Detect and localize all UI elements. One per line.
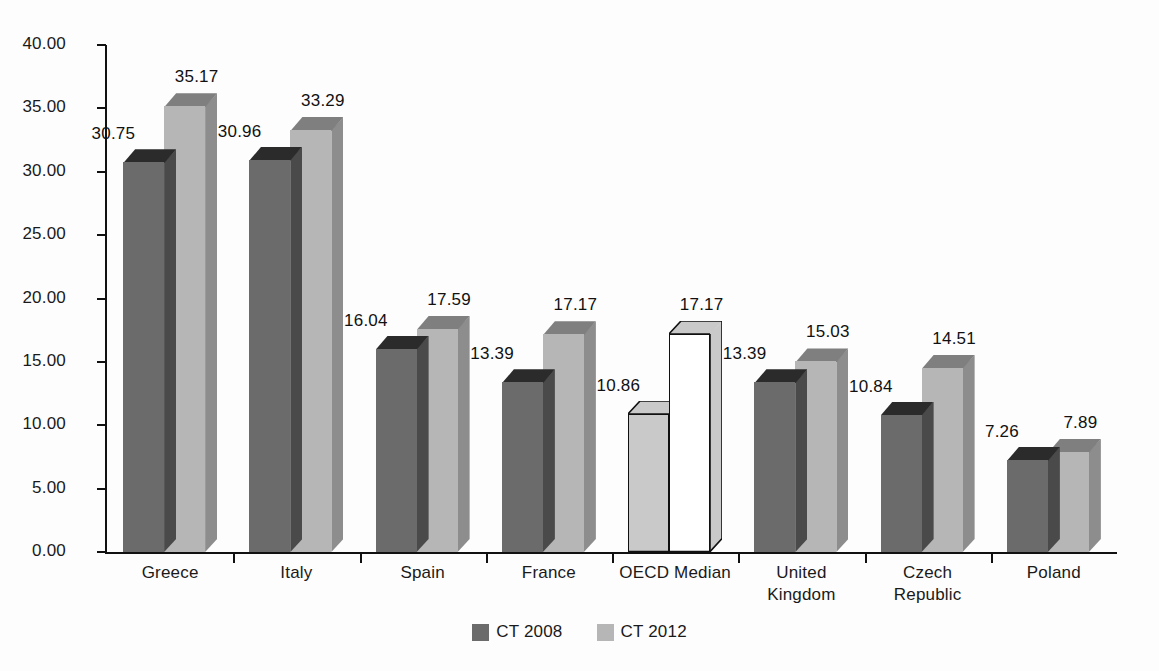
bar-column xyxy=(669,321,722,552)
y-axis-tick-label: 20.00 xyxy=(0,288,66,308)
bar-side-face xyxy=(164,149,176,552)
y-axis-tick-mark xyxy=(97,234,106,236)
bar-side-face xyxy=(922,402,934,552)
bar-value-label: 35.17 xyxy=(166,67,228,87)
y-axis-tick-label: 30.00 xyxy=(0,161,66,181)
bar-front-face xyxy=(502,382,543,552)
y-axis-tick-label: 5.00 xyxy=(0,478,66,498)
x-axis-category-label: OECD Median xyxy=(612,562,738,584)
y-axis-tick-label: 0.00 xyxy=(0,541,66,561)
bar-value-label: 7.89 xyxy=(1049,413,1111,433)
bar-front-face xyxy=(881,415,922,552)
bar-front-face xyxy=(376,349,417,552)
bar-side-face xyxy=(543,369,555,552)
y-axis-tick-mark xyxy=(97,171,106,173)
x-axis-category-label: United Kingdom xyxy=(738,562,864,606)
bar-side-face xyxy=(417,336,429,552)
bar-front-face xyxy=(123,162,164,552)
bar-value-label: 33.29 xyxy=(292,91,354,111)
bar-column xyxy=(754,369,807,552)
bar-side-face xyxy=(331,117,343,552)
legend-swatch xyxy=(597,624,614,641)
y-axis-tick-mark xyxy=(97,298,106,300)
chart-legend: CT 2008CT 2012 xyxy=(0,622,1159,642)
y-axis-tick-mark xyxy=(97,107,106,109)
y-axis-tick-mark xyxy=(97,424,106,426)
bar-side-face xyxy=(1048,447,1060,552)
bar-side-face xyxy=(836,348,848,552)
bar-value-label: 30.75 xyxy=(73,124,135,144)
legend-item[interactable]: CT 2008 xyxy=(472,622,562,642)
y-axis-line xyxy=(105,45,107,554)
y-axis-tick-label: 10.00 xyxy=(0,414,66,434)
x-axis-category-label: Spain xyxy=(360,562,486,584)
bar-value-label: 14.51 xyxy=(923,329,985,349)
plot-area: 40.0035.0030.0025.0020.0015.0010.005.000… xyxy=(0,0,1159,671)
bar-side-face xyxy=(458,316,470,552)
bar-side-face xyxy=(795,369,807,552)
y-axis-tick-label: 40.00 xyxy=(0,34,66,54)
bar-front-face xyxy=(1007,460,1048,552)
x-axis-category-label: Greece xyxy=(107,562,233,584)
bar-side-face xyxy=(1089,439,1101,552)
legend-label: CT 2012 xyxy=(621,622,687,642)
bar-value-label: 17.17 xyxy=(544,295,606,315)
bar-side-face xyxy=(963,355,975,552)
legend-label: CT 2008 xyxy=(496,622,562,642)
bar-front-face xyxy=(249,160,290,552)
bar-front-face xyxy=(754,382,795,552)
y-axis-tick-label: 35.00 xyxy=(0,97,66,117)
y-axis-tick-mark xyxy=(97,361,106,363)
bar-column xyxy=(1007,447,1060,552)
x-axis-category-label: Czech Republic xyxy=(865,562,991,606)
y-axis-tick-label: 25.00 xyxy=(0,224,66,244)
x-axis-line xyxy=(105,552,1117,554)
x-axis-category-label: Italy xyxy=(233,562,359,584)
bar-column xyxy=(249,147,302,552)
legend-swatch xyxy=(472,624,489,641)
bar-side-face xyxy=(584,321,596,552)
legend-item[interactable]: CT 2012 xyxy=(597,622,687,642)
y-axis-tick-label: 15.00 xyxy=(0,351,66,371)
bar-value-label: 15.03 xyxy=(797,322,859,342)
x-axis-category-label: Poland xyxy=(991,562,1117,584)
bar-column xyxy=(502,369,555,552)
bar-column xyxy=(376,336,429,552)
chart-figure: 40.0035.0030.0025.0020.0015.0010.005.000… xyxy=(0,0,1159,671)
bar-side-face xyxy=(290,147,302,552)
bar-column xyxy=(123,149,176,552)
bar-side-face xyxy=(205,93,217,552)
y-axis-tick-mark xyxy=(97,44,106,46)
y-axis-tick-mark xyxy=(97,551,106,553)
bar-value-label: 17.59 xyxy=(418,290,480,310)
bar-value-label: 17.17 xyxy=(671,295,733,315)
bar-column xyxy=(881,402,934,552)
bar-outline xyxy=(669,321,722,554)
x-axis-category-label: France xyxy=(486,562,612,584)
y-axis-tick-mark xyxy=(97,488,106,490)
